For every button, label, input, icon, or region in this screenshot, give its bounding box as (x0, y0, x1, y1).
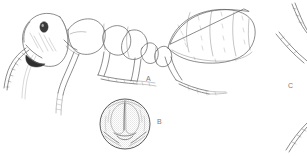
eye-highlight (42, 24, 44, 27)
figure-label-a: A (146, 75, 151, 82)
figure-label-b: B (157, 118, 162, 125)
compound-eye (40, 22, 48, 33)
illustration-plate: A B C (0, 0, 307, 156)
figure-label-c: C (288, 82, 293, 89)
plate-canvas (0, 0, 307, 156)
head-capsule-outline (100, 99, 150, 149)
figure-b-head-full-face (100, 99, 150, 149)
